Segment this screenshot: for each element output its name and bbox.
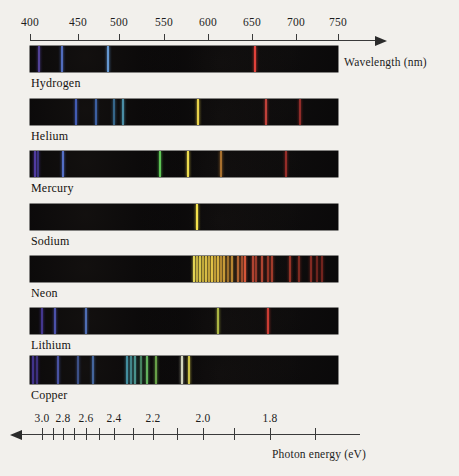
emission-line <box>199 256 201 282</box>
emission-line <box>271 256 273 282</box>
emission-line <box>113 99 114 125</box>
emission-line <box>321 256 323 282</box>
wavelength-tick-label: 700 <box>276 16 316 28</box>
wavelength-axis-line <box>30 40 375 41</box>
emission-line <box>85 308 87 334</box>
emission-line <box>202 256 203 282</box>
wavelength-tick <box>296 34 297 41</box>
emission-line <box>107 46 109 72</box>
wavelength-tick-label: 400 <box>10 16 50 28</box>
photon-energy-tick <box>53 428 54 440</box>
emission-line <box>227 256 228 282</box>
emission-line <box>316 256 317 282</box>
wavelength-tick-label: 600 <box>188 16 228 28</box>
photon-energy-tick-label: 2.0 <box>183 412 223 424</box>
wavelength-tick <box>338 34 339 41</box>
spectrum-band-hydrogen <box>30 46 338 72</box>
emission-line <box>197 99 199 125</box>
photon-energy-tick <box>315 428 316 440</box>
emission-line <box>255 256 256 282</box>
photon-energy-axis-arrow-icon <box>10 430 22 440</box>
photon-energy-tick <box>99 428 100 440</box>
emission-line <box>299 99 301 125</box>
photon-energy-tick <box>234 428 235 440</box>
emission-line <box>159 151 161 177</box>
emission-line <box>41 308 43 334</box>
emission-line <box>36 356 37 384</box>
emission-line <box>37 151 38 177</box>
element-label-neon: Neon <box>31 286 58 301</box>
wavelength-tick <box>164 34 165 41</box>
spectrum-band-copper <box>30 356 338 384</box>
emission-line <box>54 308 56 334</box>
emission-line <box>254 46 256 72</box>
photon-energy-tick <box>114 428 115 440</box>
photon-energy-tick <box>42 428 43 440</box>
emission-line <box>231 256 233 282</box>
wavelength-axis-arrow-icon <box>375 36 387 46</box>
emission-line <box>140 356 141 384</box>
wavelength-tick-label: 750 <box>318 16 358 28</box>
wavelength-axis-title: Wavelength (nm) <box>344 56 427 68</box>
emission-line <box>155 356 157 384</box>
spectra-figure: 400450500550600650700750 Wavelength (nm)… <box>0 0 459 476</box>
emission-line <box>223 256 225 282</box>
emission-line <box>126 356 128 384</box>
photon-energy-tick <box>133 428 134 440</box>
emission-line <box>214 256 215 282</box>
photon-energy-tick-label: 2.2 <box>133 412 173 424</box>
emission-line <box>208 256 209 282</box>
emission-line <box>220 151 222 177</box>
emission-line <box>211 256 213 282</box>
photon-energy-tick <box>270 428 271 440</box>
spectrum-band-mercury <box>30 151 338 177</box>
wavelength-tick-label: 550 <box>144 16 184 28</box>
emission-line <box>61 46 63 72</box>
photon-energy-axis-title: Photon energy (eV) <box>272 448 366 460</box>
emission-line <box>95 99 97 125</box>
emission-line <box>237 256 239 282</box>
wavelength-tick <box>78 34 79 41</box>
emission-line <box>217 256 219 282</box>
wavelength-tick <box>252 34 253 41</box>
emission-line <box>187 151 189 177</box>
emission-line <box>196 256 197 282</box>
element-label-lithium: Lithium <box>31 338 71 353</box>
wavelength-tick-label: 500 <box>99 16 139 28</box>
photon-energy-tick-label: 1.8 <box>250 412 290 424</box>
emission-line <box>289 256 291 282</box>
emission-line <box>181 356 183 384</box>
wavelength-tick <box>119 34 120 41</box>
photon-energy-tick <box>203 428 204 440</box>
emission-line <box>310 256 312 282</box>
wavelength-tick-label: 650 <box>232 16 272 28</box>
emission-line <box>298 256 299 282</box>
wavelength-tick <box>208 34 209 41</box>
emission-line <box>38 46 40 72</box>
wavelength-tick-label: 450 <box>58 16 98 28</box>
emission-line <box>196 204 199 230</box>
emission-line <box>57 356 59 384</box>
photon-energy-tick <box>153 428 154 440</box>
photon-energy-tick <box>63 428 64 440</box>
photon-energy-axis-line <box>22 434 360 435</box>
spectrum-band-sodium <box>30 204 338 230</box>
emission-line <box>252 256 254 282</box>
emission-line <box>261 256 263 282</box>
emission-line <box>188 356 190 384</box>
emission-line <box>134 356 136 384</box>
wavelength-tick <box>30 34 31 41</box>
emission-line <box>122 99 124 125</box>
emission-line <box>130 356 131 384</box>
photon-energy-tick <box>74 428 75 440</box>
emission-line <box>205 256 207 282</box>
element-label-copper: Copper <box>31 388 68 403</box>
emission-line <box>62 151 64 177</box>
emission-line <box>267 308 269 334</box>
spectrum-band-lithium <box>30 308 338 334</box>
emission-line <box>77 356 78 384</box>
emission-line <box>146 356 148 384</box>
emission-line <box>241 256 242 282</box>
photon-energy-tick <box>177 428 178 440</box>
element-label-sodium: Sodium <box>31 234 70 249</box>
